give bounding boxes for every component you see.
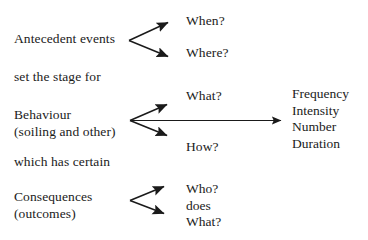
- arrow-behaviour-to-what: [130, 105, 167, 121]
- measures-stack: Frequency Intensity Number Duration: [292, 86, 349, 152]
- label-question-what-consequence: What?: [186, 214, 221, 231]
- label-measure-duration: Duration: [292, 136, 349, 153]
- label-behaviour-detail: (soiling and other): [14, 124, 116, 140]
- consequence-question-stack: Who? does What?: [186, 181, 221, 231]
- arrow-antecedent-to-when: [129, 23, 168, 41]
- label-measure-frequency: Frequency: [292, 86, 349, 103]
- label-question-does: does: [186, 198, 221, 215]
- label-question-who: Who?: [186, 181, 221, 198]
- label-consequences-detail: (outcomes): [14, 206, 76, 222]
- label-antecedent-events: Antecedent events: [14, 31, 115, 47]
- label-connector-which-has-certain: which has certain: [14, 154, 110, 170]
- label-consequences: Consequences: [14, 189, 92, 205]
- label-question-what-behaviour: What?: [186, 88, 222, 104]
- arrow-behaviour-to-how: [130, 121, 167, 136]
- label-measure-number: Number: [292, 119, 349, 136]
- label-behaviour: Behaviour: [14, 107, 71, 123]
- arrow-consequences-to-who: [130, 187, 164, 201]
- label-measure-intensity: Intensity: [292, 103, 349, 120]
- arrow-antecedent-to-where: [129, 41, 168, 57]
- diagram-canvas: Antecedent events set the stage for Beha…: [0, 0, 368, 240]
- label-question-how: How?: [186, 139, 219, 155]
- arrow-consequences-to-what: [130, 201, 164, 214]
- label-question-when: When?: [186, 13, 225, 29]
- label-connector-set-the-stage-for: set the stage for: [14, 69, 101, 85]
- label-question-where: Where?: [186, 45, 229, 61]
